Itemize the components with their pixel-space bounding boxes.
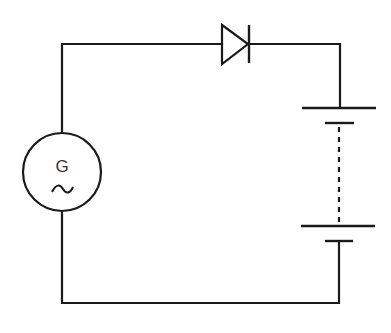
wire-bottom — [62, 211, 339, 303]
wire-top-left — [62, 44, 222, 133]
circuit-diagram: G — [0, 0, 391, 333]
diode-icon — [222, 25, 249, 64]
wire-top-right — [249, 44, 340, 108]
generator-icon: G — [23, 133, 101, 211]
battery-icon — [301, 108, 376, 241]
generator-label: G — [55, 157, 68, 176]
